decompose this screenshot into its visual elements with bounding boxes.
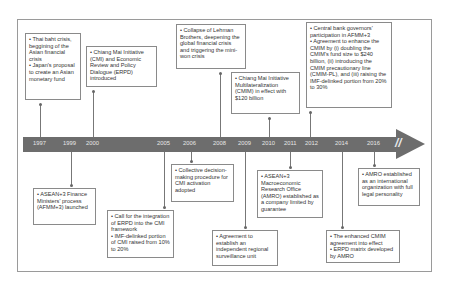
timeline-break-marker: // — [395, 136, 402, 150]
event-box-2010: • Chiang Mai Initiative Multilateralizat… — [231, 72, 300, 114]
event-text: • Agreement to enhance the CMIM by (i) d… — [310, 38, 388, 91]
event-text: • Call for the integration of ERPD into … — [111, 213, 170, 233]
event-text: • AMRO established as an international o… — [362, 171, 416, 197]
event-text: • ASEAN+3 Macroeconomic Research Office … — [261, 173, 319, 213]
event-text: • Chiang Mai Initiative (CMI) and Econom… — [90, 49, 153, 82]
event-text: • ASEAN+3 Finance Ministers' process (AF… — [37, 191, 92, 211]
event-text: • Collective decision-making procedure f… — [175, 167, 230, 193]
event-box-1999: • ASEAN+3 Finance Ministers' process (AF… — [33, 188, 96, 225]
connector-dot-2005 — [163, 206, 166, 209]
year-label-2010: 2010 — [262, 140, 275, 146]
connector-2008 — [220, 73, 221, 137]
connector-2000 — [93, 91, 94, 137]
year-label-1999: 1999 — [63, 140, 76, 146]
connector-1997 — [40, 104, 41, 137]
connector-dot-2011 — [289, 166, 292, 169]
connector-2014 — [342, 152, 343, 228]
connector-2009 — [245, 152, 246, 228]
connector-dot-2009 — [244, 226, 247, 229]
connector-dot-2000 — [92, 90, 95, 93]
connector-dot-2014 — [341, 226, 344, 229]
event-box-1997: • Thai baht crisis, beggining of the Asi… — [25, 33, 81, 100]
year-label-2006: 2006 — [183, 140, 196, 146]
year-label-2005: 2005 — [157, 140, 170, 146]
event-box-2000: • Chiang Mai Initiative (CMI) and Econom… — [86, 46, 157, 87]
event-box-2011: • ASEAN+3 Macroeconomic Research Office … — [257, 170, 323, 218]
event-box-2016: • AMRO established as an international o… — [358, 168, 420, 206]
connector-2010 — [269, 118, 270, 137]
event-text: • Agreement to establish an independent … — [216, 233, 274, 259]
event-text: • Thai baht crisis, beggining of the Asi… — [29, 36, 77, 62]
event-text: • Central bank governors' participation … — [310, 25, 388, 38]
year-label-1997: 1997 — [33, 140, 46, 146]
year-label-2008: 2008 — [213, 140, 226, 146]
year-label-2000: 2000 — [86, 140, 99, 146]
connector-dot-1997 — [39, 103, 42, 106]
connector-dot-2008 — [219, 72, 222, 75]
connector-dot-2012 — [309, 111, 312, 114]
event-text: • ERPD matrix developed by AMRO — [330, 246, 396, 259]
connector-2005 — [164, 152, 165, 208]
year-label-2009: 2009 — [238, 140, 251, 146]
event-text: • Japan's proposal to create an Asian mo… — [29, 62, 77, 82]
event-box-2008: • Collapse of Lehman Brothers, deepening… — [176, 24, 246, 69]
year-label-2016: 2016 — [367, 140, 380, 146]
connector-2012 — [310, 112, 311, 137]
event-text: • Collapse of Lehman Brothers, deepening… — [180, 27, 242, 60]
event-box-2012: • Central bank governors' participation … — [306, 22, 392, 108]
event-box-2009: • Agreement to establish an independent … — [212, 230, 278, 266]
connector-dot-2016 — [373, 164, 376, 167]
event-text: • IMF-delinked portion of CMI raised fro… — [111, 233, 170, 253]
connector-dot-1999 — [70, 184, 73, 187]
connector-1999 — [71, 152, 72, 186]
year-label-2012: 2012 — [305, 140, 318, 146]
event-box-2006: • Collective decision-making procedure f… — [171, 164, 234, 202]
event-text: • Chiang Mai Initiative Multilateralizat… — [235, 75, 296, 101]
event-box-2005: • Call for the integration of ERPD into … — [107, 210, 174, 258]
year-label-2014: 2014 — [335, 140, 348, 146]
year-label-2011: 2011 — [284, 140, 296, 146]
event-box-2014: • The enhanced CMIM agreement into effec… — [326, 230, 400, 263]
connector-dot-2010 — [268, 117, 271, 120]
connector-dot-2006 — [190, 160, 193, 163]
event-text: • The enhanced CMIM agreement into effec… — [330, 233, 396, 246]
